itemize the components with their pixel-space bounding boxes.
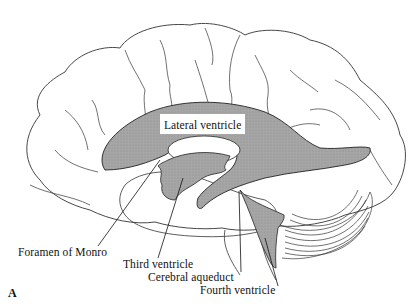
foramen-of-monro-label: Foramen of Monro	[18, 247, 107, 259]
panel-letter: A	[8, 286, 17, 301]
lateral-ventricle-label-box: Lateral ventricle	[160, 114, 245, 134]
brain-ventricles-figure: Lateral ventricle Foramen of Monro Third…	[0, 0, 417, 307]
fourth-ventricle-label: Fourth ventricle	[200, 285, 275, 297]
brain-diagram	[0, 0, 417, 307]
cerebral-aqueduct-label: Cerebral aqueduct	[148, 272, 234, 284]
lateral-ventricle-label: Lateral ventricle	[164, 119, 241, 131]
fourth-ventricle-shape	[240, 190, 284, 268]
third-ventricle-label: Third ventricle	[123, 259, 193, 271]
cerebellum	[280, 190, 372, 259]
